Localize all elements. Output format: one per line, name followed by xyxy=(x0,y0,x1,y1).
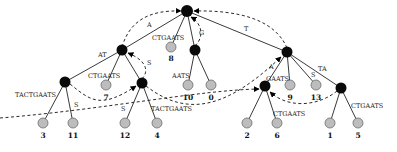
leaf-label-10: 10 xyxy=(183,93,193,102)
leaf-node-6 xyxy=(272,118,282,128)
edge-label-t: T xyxy=(244,25,249,33)
leaf-node-7 xyxy=(101,80,111,90)
edge-label-ctgaats-7: CTGAATS xyxy=(88,72,120,80)
internal-node-at xyxy=(117,45,128,56)
suffix-link-label-a2: A xyxy=(268,63,274,71)
leaf-label-2: 2 xyxy=(244,131,249,140)
leaf-label-5: 5 xyxy=(355,131,360,140)
edge-root-at xyxy=(122,11,187,50)
edge-label-s-12: S xyxy=(121,105,125,113)
leaf-node-4 xyxy=(152,118,162,128)
leaf-label-7: 7 xyxy=(103,93,108,102)
leaf-label-6: 6 xyxy=(274,131,279,140)
suffix-link-ta-gaats xyxy=(270,91,337,104)
edge-label-ctgaats-8: CTGAATS xyxy=(152,34,184,42)
leaf-node-3 xyxy=(38,118,48,128)
leaf-label-0: 0 xyxy=(208,93,213,102)
leaf-node-10 xyxy=(183,80,193,90)
edge-label-s-13: S xyxy=(311,71,315,79)
edge-label-gaats: GAATS xyxy=(266,75,289,83)
edge-leaf3 xyxy=(43,82,65,123)
suffix-tree-diagram: 8 7 10 0 9 13 3 11 12 4 2 6 1 5 AT CTGAA… xyxy=(0,0,397,152)
leaf-node-13 xyxy=(311,80,321,90)
leaf-label-13: 13 xyxy=(311,93,321,102)
edge-leaf2 xyxy=(247,86,265,123)
internal-nodes xyxy=(60,5,347,94)
edge-label-tactgaats-4: TACTGAATS xyxy=(151,105,192,113)
internal-node-at2 xyxy=(137,78,148,89)
leaf-node-12 xyxy=(120,118,130,128)
leaf-node-11 xyxy=(68,118,78,128)
suffix-link-t-root xyxy=(194,11,287,48)
leaf-label-3: 3 xyxy=(40,131,45,140)
tree-edges xyxy=(43,11,358,123)
suffix-link-label-a: A xyxy=(146,21,152,29)
edge-label-s-11: S xyxy=(74,101,78,109)
leaf-node-0 xyxy=(206,80,216,90)
leaf-label-12: 12 xyxy=(120,131,130,140)
edge-leaf4 xyxy=(142,83,157,123)
leaf-label-4: 4 xyxy=(154,131,159,140)
suffix-link-label-s: S xyxy=(147,59,151,67)
leaf-label-1: 1 xyxy=(327,131,332,140)
leaf-label-8: 8 xyxy=(168,54,173,63)
internal-node-tactgaats xyxy=(60,77,71,88)
edge-label-tactgaats-left: TACTGAATS xyxy=(15,91,56,99)
internal-node-ta xyxy=(336,83,347,94)
leaf-label-9: 9 xyxy=(287,93,292,102)
leaf-node-1 xyxy=(325,118,335,128)
internal-node-g xyxy=(190,45,201,56)
edge-label-ta: TA xyxy=(318,65,327,73)
leaf-node-8 xyxy=(166,42,176,52)
edge-leaf1 xyxy=(330,88,341,123)
leaf-label-11: 11 xyxy=(68,131,78,140)
root-node xyxy=(181,5,193,17)
suffix-link-labels: A G S A xyxy=(146,21,274,71)
internal-node-t xyxy=(282,47,293,58)
edge-g-leaf0 xyxy=(195,50,211,85)
leaf-node-2 xyxy=(242,118,252,128)
edge-label-ctgaats-6: CTGAATS xyxy=(273,110,305,118)
edge-leaf11 xyxy=(65,82,73,123)
edge-at-at2 xyxy=(122,50,142,83)
edge-label-aats: AATS xyxy=(171,72,190,80)
suffix-link-label-g: G xyxy=(199,29,204,37)
leaf-nodes xyxy=(38,42,363,128)
edge-label-at: AT xyxy=(97,51,107,59)
edge-label-ctgaats-5: CTGAATS xyxy=(351,102,383,110)
leaf-node-5 xyxy=(353,118,363,128)
